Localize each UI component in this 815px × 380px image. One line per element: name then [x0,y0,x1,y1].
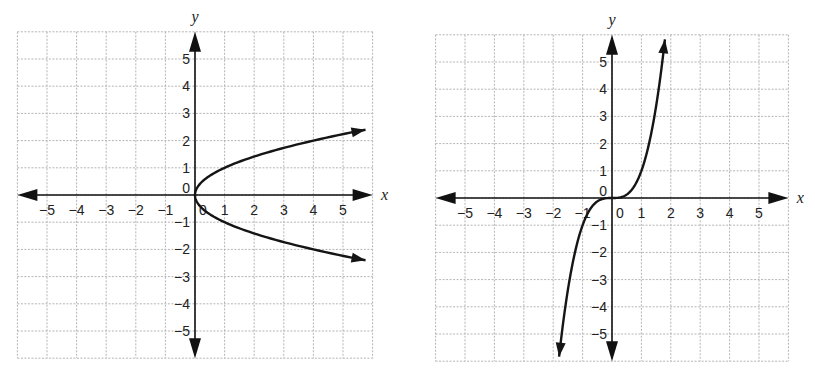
y-tick-label: −3 [591,272,607,288]
x-axis-arrow-left-icon [17,189,37,201]
chart-left-plot: −5−4−3−2−112345543210−1−2−3−4−50xy [0,0,410,380]
y-tick-label: 2 [599,136,607,152]
y-tick-label: 5 [182,51,190,67]
y-tick-label: 3 [599,108,607,124]
chart-left-parabola: −5−4−3−2−112345543210−1−2−3−4−50xy [0,0,410,380]
x-tick-label-origin: 0 [616,205,624,221]
y-tick-label: −2 [174,241,190,257]
x-tick-label: 4 [726,205,734,221]
x-tick-label: −3 [516,205,532,221]
x-tick-label: −5 [457,205,473,221]
x-tick-label: 4 [310,202,318,218]
y-tick-label: −5 [174,323,190,339]
y-tick-label: 5 [599,54,607,70]
y-tick-label: 2 [182,133,190,149]
chart-right-cubic: −5−4−3−2−112345543210−1−2−3−4−50xy [410,0,815,380]
y-tick-label: −4 [174,296,190,312]
x-tick-label: −5 [39,202,55,218]
y-tick-label: −2 [591,244,607,260]
y-tick-label: 4 [182,78,190,94]
y-tick-label: −3 [174,269,190,285]
x-axis-label: x [796,189,804,206]
chart-right-plot: −5−4−3−2−112345543210−1−2−3−4−50xy [410,0,815,380]
x-tick-label: −1 [157,202,173,218]
x-tick-label: 3 [280,202,288,218]
y-axis-label: y [189,8,199,26]
y-tick-label: 1 [599,163,607,179]
x-tick-label: 3 [696,205,704,221]
curve-arrow-end-icon [658,39,668,53]
y-tick-label: 0 [599,183,607,199]
y-axis-arrow-up-icon [606,35,618,55]
x-tick-label: −4 [69,202,85,218]
y-tick-label: −4 [591,299,607,315]
x-tick-label: 1 [221,202,229,218]
x-tick-label: −3 [98,202,114,218]
x-axis-arrow-right-icon [353,189,373,201]
x-tick-label: 5 [339,202,347,218]
x-axis-label: x [380,186,388,203]
y-tick-label: 0 [182,180,190,196]
x-tick-label: −2 [545,205,561,221]
x-tick-label: 5 [755,205,763,221]
x-tick-label: 2 [250,202,258,218]
y-tick-label: −5 [591,326,607,342]
y-tick-label: −1 [591,217,607,233]
x-tick-label: −2 [128,202,144,218]
y-axis-label: y [606,11,616,29]
y-axis-arrow-up-icon [189,32,201,52]
x-axis-arrow-left-icon [436,192,456,204]
x-tick-label: 2 [667,205,675,221]
curve-arrow-start-icon [556,342,566,356]
y-tick-label: 4 [599,81,607,97]
y-tick-label: 3 [182,105,190,121]
y-axis-arrow-down-icon [606,341,618,361]
y-axis-arrow-down-icon [189,338,201,358]
y-tick-label: 1 [182,160,190,176]
x-tick-label: −4 [486,205,502,221]
y-tick-label: −1 [174,214,190,230]
x-axis-arrow-right-icon [768,192,788,204]
x-tick-label: 1 [638,205,646,221]
